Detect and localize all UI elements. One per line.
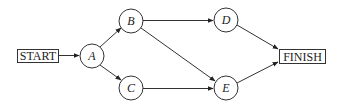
- node-e: E: [214, 76, 238, 100]
- node-a-label: A: [87, 49, 96, 63]
- finish-label: FINISH: [283, 50, 322, 64]
- start-node: START: [18, 49, 59, 63]
- node-b: B: [119, 9, 143, 33]
- finish-node: FINISH: [280, 50, 326, 64]
- node-b-label: B: [127, 14, 135, 28]
- start-label: START: [20, 49, 57, 63]
- node-e-label: E: [221, 81, 230, 95]
- node-d: D: [214, 8, 238, 32]
- edge-e-finish: [237, 62, 278, 83]
- edge-a-c: [100, 65, 121, 80]
- edge-a-b: [100, 28, 121, 47]
- node-a: A: [80, 44, 104, 68]
- node-c-label: C: [127, 81, 136, 95]
- node-c: C: [119, 76, 143, 100]
- edge-d-finish: [237, 25, 278, 49]
- edge-b-e: [141, 28, 215, 81]
- node-d-label: D: [221, 13, 231, 27]
- network-diagram: START FINISH A B C D E: [0, 0, 340, 106]
